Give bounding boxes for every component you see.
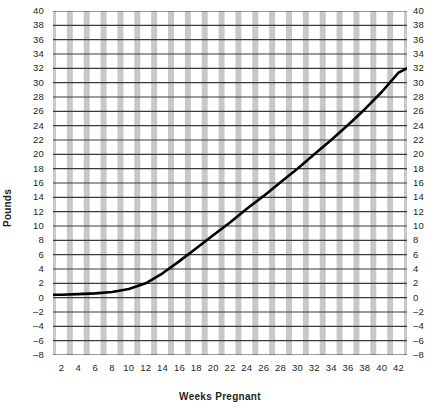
y-axis-tick-label: 10 xyxy=(22,221,44,231)
plot-area xyxy=(53,11,407,355)
y-axis-tick-label: 6 xyxy=(22,250,44,260)
y-axis-tick-label-right: 16 xyxy=(413,178,435,188)
x-axis-tick-label: 42 xyxy=(389,363,409,373)
y-axis-tick-label-right: 34 xyxy=(413,49,435,59)
y-axis-tick-label: 26 xyxy=(22,106,44,116)
plot-svg xyxy=(53,11,407,355)
y-axis-tick-label-right: –4 xyxy=(413,321,435,331)
y-axis-tick-label: 8 xyxy=(22,235,44,245)
y-axis-tick-label-right: –8 xyxy=(413,350,435,360)
y-axis-tick-label: 18 xyxy=(22,164,44,174)
y-axis-tick-label: –6 xyxy=(22,336,44,346)
y-axis-tick-label: 16 xyxy=(22,178,44,188)
y-axis-tick-label: 40 xyxy=(22,6,44,16)
y-axis-tick-label-right: 14 xyxy=(413,192,435,202)
y-axis-tick-label-right: 12 xyxy=(413,207,435,217)
y-axis-tick-label: 4 xyxy=(22,264,44,274)
y-axis-tick-label: –8 xyxy=(22,350,44,360)
y-axis-tick-label: 14 xyxy=(22,192,44,202)
y-axis-tick-label-right: –6 xyxy=(413,336,435,346)
y-axis-tick-label-right: 4 xyxy=(413,264,435,274)
y-axis-tick-label: 0 xyxy=(22,293,44,303)
y-axis-tick-label: 24 xyxy=(22,121,44,131)
y-axis-tick-label-right: 36 xyxy=(413,35,435,45)
y-axis-tick-label: 30 xyxy=(22,78,44,88)
weight-gain-chart: Pounds –8–6–4–20246810121416182022242628… xyxy=(0,0,440,412)
y-axis-tick-label-right: 24 xyxy=(413,121,435,131)
y-axis-tick-label-right: 40 xyxy=(413,6,435,16)
y-axis-title: Pounds xyxy=(2,178,13,238)
y-axis-tick-label: 38 xyxy=(22,20,44,30)
y-axis-tick-label-right: 22 xyxy=(413,135,435,145)
y-axis-tick-label-right: 26 xyxy=(413,106,435,116)
y-axis-tick-label: 32 xyxy=(22,63,44,73)
y-axis-tick-label: 28 xyxy=(22,92,44,102)
y-axis-tick-label: 2 xyxy=(22,278,44,288)
y-axis-tick-label: 36 xyxy=(22,35,44,45)
y-axis-tick-label-right: 8 xyxy=(413,235,435,245)
y-axis-tick-label-right: 20 xyxy=(413,149,435,159)
y-axis-tick-label: 12 xyxy=(22,207,44,217)
y-axis-tick-label-right: 38 xyxy=(413,20,435,30)
y-axis-tick-label-right: 2 xyxy=(413,278,435,288)
y-axis-tick-label: 22 xyxy=(22,135,44,145)
y-axis-tick-label-right: 28 xyxy=(413,92,435,102)
y-axis-tick-label: –2 xyxy=(22,307,44,317)
y-axis-tick-label-right: 32 xyxy=(413,63,435,73)
y-axis-tick-label: –4 xyxy=(22,321,44,331)
y-axis-tick-label: 34 xyxy=(22,49,44,59)
y-axis-tick-label-right: 10 xyxy=(413,221,435,231)
y-axis-tick-label-right: 30 xyxy=(413,78,435,88)
y-axis-tick-label: 20 xyxy=(22,149,44,159)
y-axis-tick-label-right: 6 xyxy=(413,250,435,260)
y-axis-tick-label-right: 0 xyxy=(413,293,435,303)
y-axis-tick-label-right: 18 xyxy=(413,164,435,174)
y-axis-tick-label-right: –2 xyxy=(413,307,435,317)
x-axis-title: Weeks Pregnant xyxy=(0,391,440,402)
